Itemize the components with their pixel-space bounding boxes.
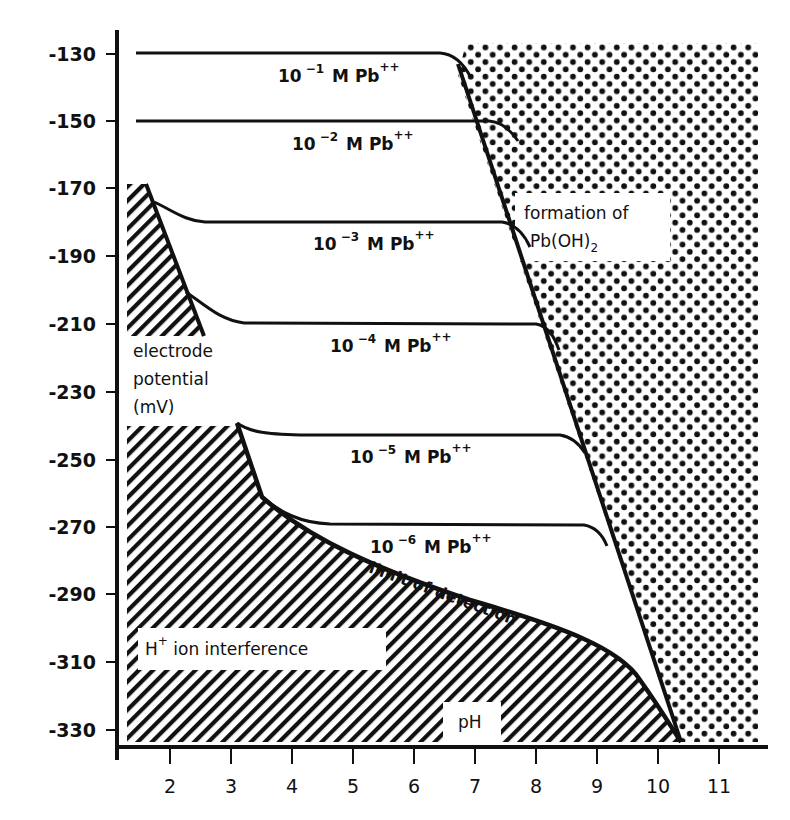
label-1e-2: 10−2M Pb++ xyxy=(292,128,414,154)
svg-text:-270: -270 xyxy=(48,516,96,538)
svg-text:5: 5 xyxy=(347,775,359,797)
svg-text:-170: -170 xyxy=(48,177,96,199)
svg-text:4: 4 xyxy=(286,775,298,797)
label-1e-3: 10−3M Pb++ xyxy=(313,228,435,254)
y-axis-title-line2: potential xyxy=(133,369,209,389)
label-1e-5: 10−5M Pb++ xyxy=(350,441,472,467)
svg-text:-230: -230 xyxy=(48,381,96,403)
svg-text:-190: -190 xyxy=(48,245,96,267)
svg-text:-290: -290 xyxy=(48,583,96,605)
x-axis-title: pH xyxy=(458,712,482,732)
svg-text:-310: -310 xyxy=(48,651,96,673)
svg-text:2: 2 xyxy=(164,775,176,797)
svg-text:-250: -250 xyxy=(48,449,96,471)
svg-text:-330: -330 xyxy=(48,719,96,741)
titration-chart: -130 -150 -170 -190 -210 -230 -250 -270 … xyxy=(0,0,790,820)
svg-text:8: 8 xyxy=(530,775,542,797)
curve-1e-1 xyxy=(136,53,471,78)
svg-text:6: 6 xyxy=(408,775,420,797)
precip-label-line1: formation of xyxy=(524,203,629,223)
curve-labels: 10−1M Pb++ 10−2M Pb++ 10−3M Pb++ 10−4M P… xyxy=(278,60,492,557)
svg-text:7: 7 xyxy=(469,775,481,797)
svg-text:-130: -130 xyxy=(48,43,96,65)
x-ticks xyxy=(170,747,719,764)
label-1e-4: 10−4M Pb++ xyxy=(330,330,452,356)
svg-text:-210: -210 xyxy=(48,313,96,335)
label-1e-1: 10−1M Pb++ xyxy=(278,60,400,86)
y-axis-title-line1: electrode xyxy=(133,341,213,361)
y-tick-labels: -130 -150 -170 -190 -210 -230 -250 -270 … xyxy=(48,43,96,741)
y-axis-title-line3: (mV) xyxy=(133,397,174,417)
label-1e-6: 10−6M Pb++ xyxy=(370,531,492,557)
svg-text:-150: -150 xyxy=(48,110,96,132)
svg-text:9: 9 xyxy=(591,775,603,797)
x-tick-labels: 2 3 4 5 6 7 8 9 10 11 xyxy=(164,775,731,797)
svg-text:3: 3 xyxy=(225,775,237,797)
svg-text:10: 10 xyxy=(646,775,670,797)
svg-text:11: 11 xyxy=(707,775,731,797)
